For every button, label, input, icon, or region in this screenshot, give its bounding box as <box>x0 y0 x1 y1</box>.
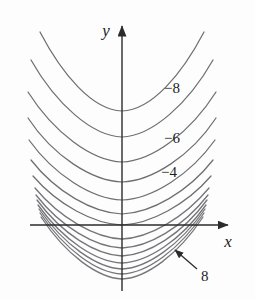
contour-label-minus-4: −4 <box>161 164 177 180</box>
contour-label-minus-6: −6 <box>164 130 180 146</box>
contour-label-8: 8 <box>201 268 209 284</box>
level-curves-figure: y x −8 −6 −4 8 <box>0 0 255 300</box>
contour-label-minus-8: −8 <box>164 80 180 96</box>
x-axis-label: x <box>223 232 232 251</box>
y-axis-label: y <box>100 21 110 40</box>
plot-canvas: y x −8 −6 −4 8 <box>0 0 255 300</box>
